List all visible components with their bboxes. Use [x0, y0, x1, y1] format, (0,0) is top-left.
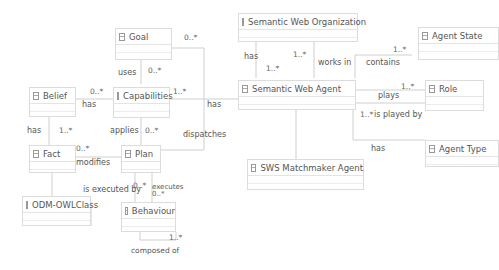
class-goal[interactable]: Goal	[115, 28, 172, 60]
class-icon	[125, 207, 128, 215]
label-swa-has: has	[207, 100, 221, 109]
class-belief[interactable]: Belief	[29, 87, 76, 117]
class-name: Capabilities	[123, 91, 173, 101]
mult-applies: 0..*	[145, 126, 158, 135]
mult-swo-right: 1..*	[293, 50, 306, 59]
class-name: Fact	[43, 149, 60, 159]
class-semantic-web-agent[interactable]: Semantic Web Agent	[238, 80, 356, 110]
label-modifies: modifies	[76, 158, 110, 167]
class-icon	[125, 150, 131, 158]
class-name: Role	[439, 84, 457, 94]
class-agent-state[interactable]: Agent State	[418, 27, 499, 60]
class-icon	[26, 201, 28, 209]
mult-agent-state: 1..*	[393, 45, 406, 54]
class-name: Agent State	[432, 31, 482, 41]
class-name: ODM-OWLClass	[32, 200, 98, 210]
class-name: Behaviour	[132, 206, 175, 216]
class-icon	[251, 164, 256, 172]
mult-executes: 0..*	[152, 190, 164, 198]
mult-role: 1..*	[401, 82, 414, 91]
class-icon	[119, 33, 125, 41]
class-name: Semantic Web Agent	[252, 84, 341, 94]
mult-composed: 1..*	[169, 233, 182, 242]
label-type-has: has	[371, 144, 385, 153]
label-contains: contains	[366, 58, 400, 67]
class-semantic-web-organization[interactable]: Semantic Web Organization	[238, 13, 358, 42]
class-icon	[242, 18, 244, 26]
label-uses: uses	[118, 68, 136, 77]
class-odm-owlclass[interactable]: ODM-OWLClass	[22, 196, 91, 226]
label-composed-of: composed of	[131, 246, 179, 255]
class-name: Plan	[135, 149, 153, 159]
class-icon	[429, 85, 435, 93]
class-icon	[422, 32, 428, 40]
mult-belief-cap: 0..*	[90, 87, 103, 96]
label-works-in: works in	[318, 58, 351, 67]
mult-goal-top: 0..*	[184, 33, 197, 42]
mult-fact-has: 1..*	[59, 126, 72, 135]
class-name: Semantic Web Organization	[248, 17, 366, 27]
class-behaviour[interactable]: Behaviour	[121, 202, 176, 232]
label-applies: applies	[110, 126, 139, 135]
mult-played-by: 1..*	[360, 110, 373, 119]
class-name: Agent Type	[439, 144, 486, 154]
class-icon	[33, 92, 39, 100]
mult-cap-right: 1..*	[173, 87, 186, 96]
class-icon	[33, 150, 39, 158]
class-plan[interactable]: Plan	[121, 145, 161, 173]
mult-swa-top: 1..*	[266, 64, 279, 73]
class-icon	[117, 92, 119, 100]
label-swo-has: has	[244, 52, 258, 61]
mult-fact-mod: 0..*	[76, 144, 89, 153]
class-sws-matchmaker-agent[interactable]: SWS Matchmaker Agent	[247, 159, 364, 190]
label-dispatches: dispatches	[183, 130, 226, 139]
class-fact[interactable]: Fact	[29, 145, 76, 173]
mult-uses: 0..*	[148, 66, 161, 75]
class-icon	[242, 85, 248, 93]
mult-plan-exec: 0..*	[133, 181, 146, 190]
label-belief-has: has	[82, 100, 96, 109]
class-name: Belief	[43, 91, 67, 101]
label-fact-has: has	[27, 126, 41, 135]
class-name: SWS Matchmaker Agent	[260, 163, 363, 173]
class-capabilities[interactable]: Capabilities	[113, 87, 170, 118]
class-icon	[429, 145, 435, 153]
type-has-line	[353, 103, 425, 140]
label-is-played-by: is played by	[374, 110, 422, 119]
class-role[interactable]: Role	[425, 80, 484, 111]
class-agent-type[interactable]: Agent Type	[425, 140, 499, 167]
class-name: Goal	[129, 32, 148, 42]
label-plays: plays	[378, 91, 399, 100]
